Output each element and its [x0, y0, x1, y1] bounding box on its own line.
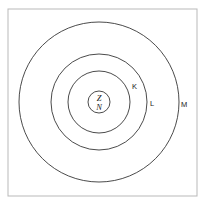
diagram-canvas: K L M Z N	[0, 0, 206, 206]
figure-frame	[8, 9, 197, 196]
atomic-shell-diagram: K L M Z N	[0, 0, 206, 206]
shell-label-k: K	[132, 82, 137, 91]
shell-label-m: M	[181, 100, 187, 109]
shell-label-l: L	[150, 99, 154, 108]
